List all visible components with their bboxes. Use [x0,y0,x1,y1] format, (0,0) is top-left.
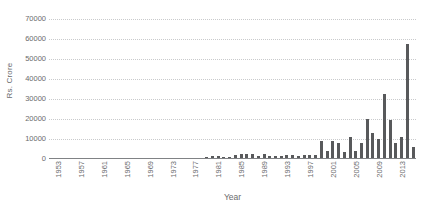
x-tick-label: 1981 [215,161,223,178]
x-tick-label: 1993 [284,161,292,178]
bar [320,141,323,159]
y-tick-label: 50000 [25,55,46,63]
plot-area [49,19,416,159]
x-axis-tick-labels: 1953195719611965196919731977198119851989… [49,161,416,191]
y-tick-label: 40000 [25,75,46,83]
bar [371,133,374,159]
bar [349,137,352,159]
bar [406,44,409,159]
x-tick-label: 1965 [124,161,132,178]
bar [366,119,369,159]
x-tick-label: 1985 [238,161,246,178]
bar [394,143,397,159]
x-tick-label: 1977 [192,161,200,178]
bar [360,143,363,159]
x-tick-label: 1989 [261,161,269,178]
bar-chart: Rs. Crore 010000200003000040000500006000… [0,0,421,210]
x-tick-label: 1957 [78,161,86,178]
x-tick-label: 1997 [307,161,315,178]
y-tick-label: 0 [42,155,46,163]
x-tick-label: 2009 [376,161,384,178]
bar [377,139,380,159]
x-tick-label: 2001 [330,161,338,178]
y-tick-label: 70000 [25,15,46,23]
bar [389,120,392,159]
x-tick-label: 1961 [101,161,109,178]
x-tick-label: 1969 [147,161,155,178]
bar [331,141,334,159]
x-tick-label: 1973 [170,161,178,178]
y-tick-label: 30000 [25,95,46,103]
x-tick-label: 1953 [55,161,63,178]
y-tick-label: 10000 [25,135,46,143]
x-axis-line [49,158,416,159]
bar [400,137,403,159]
y-axis-title-text: Rs. Crore [5,62,14,98]
y-tick-label: 20000 [25,115,46,123]
x-tick-label: 2013 [399,161,407,178]
bar [383,94,386,159]
bars-layer [49,19,416,159]
y-tick-label: 60000 [25,35,46,43]
x-tick-label: 2005 [353,161,361,178]
bar [337,143,340,159]
x-axis-title: Year [49,192,416,202]
y-axis-tick-labels: 010000200003000040000500006000070000 [16,14,46,160]
